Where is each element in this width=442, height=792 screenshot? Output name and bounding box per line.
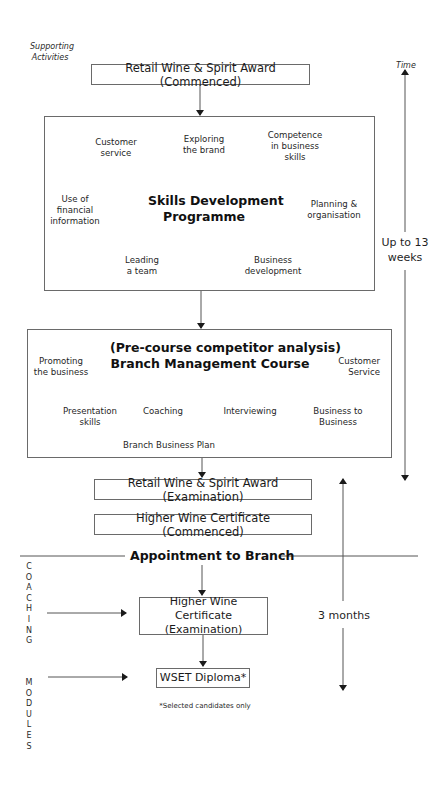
modules-letter: S: [23, 742, 35, 753]
branch-label-line: Interviewing: [222, 406, 278, 417]
coaching-letter: N: [23, 626, 35, 637]
hwc-examination-box: Higher Wine Certificate (Examination): [139, 597, 268, 635]
supporting-line-2: Activities: [30, 52, 70, 63]
branch-business-to-business: Business to Business: [310, 406, 366, 428]
rwsa-examination-label: Retail Wine & Spirit Award (Examination): [95, 476, 311, 504]
coaching-letter: I: [23, 615, 35, 626]
branch-promoting-business: Promoting the business: [33, 356, 89, 378]
phase1-duration: Up to 13 weeks: [379, 235, 431, 265]
rwsa-commenced-box: Retail Wine & Spirit Award (Commenced): [91, 64, 310, 85]
branch-customer-service: Customer Service: [328, 356, 380, 378]
branch-title-line-1: (Pre-course competitor analysis): [110, 340, 310, 356]
skill-label-line: Use of: [47, 194, 103, 205]
coaching-letter: C: [23, 562, 35, 573]
skill-business-development: Business development: [240, 255, 306, 277]
coaching-letter: C: [23, 594, 35, 605]
skills-title-line-2: Programme: [148, 209, 260, 225]
skill-label-line: Competence: [262, 130, 328, 141]
phase1-line-1: Up to 13: [379, 235, 431, 250]
hwc-commenced-label: Higher Wine Certificate (Commenced): [95, 511, 311, 539]
wset-diploma-label: WSET Diploma*: [160, 671, 246, 685]
footnote: *Selected candidates only: [150, 701, 260, 712]
skill-exploring-brand: Exploring the brand: [174, 134, 234, 156]
branch-label-line: Presentation: [60, 406, 120, 417]
skill-label-line: financial: [47, 205, 103, 216]
skill-label-line: organisation: [303, 210, 365, 221]
supporting-activities-label: Supporting Activities: [30, 41, 70, 63]
skill-label-line: Customer: [86, 137, 146, 148]
skill-leading-team: Leading a team: [117, 255, 167, 277]
skill-label-line: service: [86, 148, 146, 159]
branch-business-plan: Branch Business Plan: [123, 440, 213, 451]
modules-vertical-label: M O D U L E S: [23, 678, 35, 752]
modules-letter: M: [23, 678, 35, 689]
skill-label-line: in business: [262, 141, 328, 152]
wset-diploma-box: WSET Diploma*: [156, 668, 250, 688]
skill-label-line: a team: [117, 266, 167, 277]
branch-label-line: the business: [33, 367, 89, 378]
skill-customer-service: Customer service: [86, 137, 146, 159]
branch-label-line: Branch Business Plan: [123, 440, 213, 451]
skill-label-line: information: [47, 216, 103, 227]
modules-letter: L: [23, 720, 35, 731]
appointment-to-branch: Appointment to Branch: [130, 548, 276, 564]
coaching-letter: O: [23, 573, 35, 584]
skill-label-line: development: [240, 266, 306, 277]
modules-letter: U: [23, 710, 35, 721]
modules-letter: E: [23, 731, 35, 742]
coaching-letter: G: [23, 636, 35, 647]
branch-course-title: (Pre-course competitor analysis) Branch …: [110, 340, 310, 372]
branch-label-line: Coaching: [138, 406, 188, 417]
hwc-commenced-box: Higher Wine Certificate (Commenced): [94, 514, 312, 535]
branch-label-line: skills: [60, 417, 120, 428]
coaching-letter: A: [23, 583, 35, 594]
branch-interviewing: Interviewing: [222, 406, 278, 417]
skill-label-line: Business: [240, 255, 306, 266]
branch-presentation-skills: Presentation skills: [60, 406, 120, 428]
branch-coaching: Coaching: [138, 406, 188, 417]
rwsa-examination-box: Retail Wine & Spirit Award (Examination): [94, 479, 312, 500]
skill-label-line: Exploring: [174, 134, 234, 145]
skill-label-line: Planning &: [303, 199, 365, 210]
modules-letter: O: [23, 689, 35, 700]
supporting-line-1: Supporting: [30, 41, 70, 52]
coaching-letter: H: [23, 604, 35, 615]
branch-label-line: Customer: [328, 356, 380, 367]
branch-label-line: Promoting: [33, 356, 89, 367]
skills-title-line-1: Skills Development: [148, 193, 260, 209]
branch-label-line: Business to: [310, 406, 366, 417]
skill-label-line: the brand: [174, 145, 234, 156]
skills-programme-title: Skills Development Programme: [148, 193, 260, 225]
rwsa-commenced-label: Retail Wine & Spirit Award (Commenced): [92, 61, 309, 89]
modules-letter: D: [23, 699, 35, 710]
phase1-line-2: weeks: [379, 250, 431, 265]
hwc-exam-line-2: (Examination): [165, 623, 242, 637]
skill-planning-organisation: Planning & organisation: [303, 199, 365, 221]
skill-financial-information: Use of financial information: [47, 194, 103, 227]
branch-label-line: Business: [310, 417, 366, 428]
skill-competence-business: Competence in business skills: [262, 130, 328, 163]
time-axis-label: Time: [396, 60, 416, 71]
hwc-exam-line-1: Higher Wine Certificate: [140, 595, 267, 623]
skill-label-line: skills: [262, 152, 328, 163]
coaching-vertical-label: C O A C H I N G: [23, 562, 35, 647]
skill-label-line: Leading: [117, 255, 167, 266]
branch-title-line-2: Branch Management Course: [110, 356, 310, 372]
branch-label-line: Service: [328, 367, 380, 378]
phase2-duration: 3 months: [316, 608, 372, 623]
